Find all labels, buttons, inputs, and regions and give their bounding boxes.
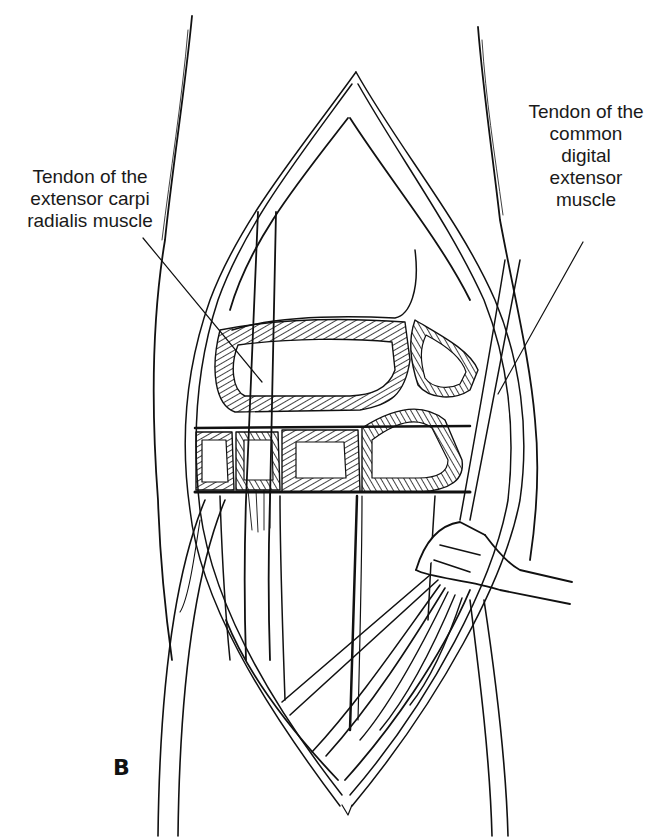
- retractor-instrument: [416, 522, 572, 604]
- label-line: digital: [520, 145, 652, 167]
- carpal-bones-proximal-row: [215, 320, 478, 412]
- label-extensor-carpi-radialis: Tendon of the extensor carpi radialis mu…: [4, 166, 176, 232]
- leader-line-right: [498, 242, 583, 394]
- panel-letter: B: [113, 755, 130, 780]
- lateral-tendons-left: [158, 500, 225, 836]
- label-line: radialis muscle: [4, 210, 176, 232]
- label-line: extensor carpi: [4, 188, 176, 210]
- label-common-digital-extensor: Tendon of the common digital extensor mu…: [520, 101, 652, 211]
- label-line: Tendon of the: [4, 166, 176, 188]
- radius-distal: [232, 250, 416, 330]
- carpal-bones-distal-row: [195, 409, 470, 492]
- label-line: Tendon of the: [520, 101, 652, 123]
- label-line: common: [520, 123, 652, 145]
- skin-contour-left: [154, 16, 192, 660]
- label-line: muscle: [520, 189, 652, 211]
- label-line: extensor: [520, 167, 652, 189]
- lateral-tendons-right: [470, 600, 508, 836]
